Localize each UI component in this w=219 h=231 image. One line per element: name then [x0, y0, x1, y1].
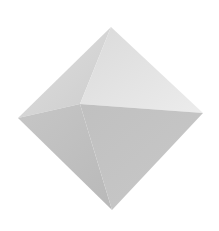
octahedron-figure	[0, 0, 219, 231]
